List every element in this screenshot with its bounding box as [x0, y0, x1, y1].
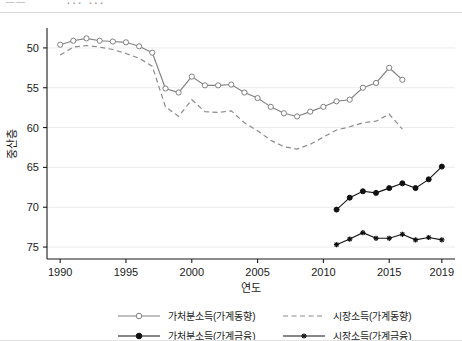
cropped-header-strip: ── ··· ··· [0, 0, 462, 14]
x-tick-label-2010: 2010 [311, 266, 335, 278]
series-0-marker-2005 [255, 95, 260, 100]
series-0-marker-2007 [281, 111, 286, 116]
series-0-marker-2009 [308, 109, 313, 114]
series-3-marker-2019 [439, 237, 444, 242]
series-0-marker-2001 [202, 83, 207, 88]
series-0-marker-2012 [347, 97, 352, 102]
series-3-marker-2012 [347, 236, 352, 241]
x-tick-label-2015: 2015 [377, 266, 401, 278]
series-2-marker-2019 [439, 164, 444, 169]
series-2-marker-2014 [374, 190, 379, 195]
series-0-marker-2006 [268, 104, 273, 109]
series-0-marker-2015 [387, 65, 392, 70]
chart-container: 7570656055501990199520002005201020152019… [0, 14, 462, 341]
series-line-0 [60, 38, 402, 116]
series-0-marker-1992 [84, 36, 89, 41]
series-0-marker-1997 [150, 50, 155, 55]
legend-swatch-3 [283, 333, 325, 338]
series-3-marker-2016 [400, 232, 405, 237]
series-0-marker-2003 [229, 82, 234, 87]
x-tick-label-1990: 1990 [48, 266, 72, 278]
y-axis-title: 중산층 [6, 129, 18, 159]
series-0-marker-1998 [163, 86, 168, 91]
y-tick-label-75: 50 [27, 42, 39, 54]
x-tick-label-2005: 2005 [245, 266, 269, 278]
y-tick-label-55: 70 [27, 201, 39, 213]
series-0-marker-1999 [176, 90, 181, 95]
series-2-marker-2012 [347, 195, 352, 200]
legend-swatch-2 [118, 333, 160, 339]
legend-label-1: 시장소득(가계동향) [333, 311, 412, 322]
series-3-marker-2018 [426, 235, 431, 240]
legend-label-0: 가처분소득(가계동향) [168, 311, 256, 322]
series-2-marker-2013 [360, 189, 365, 194]
series-0-marker-2013 [360, 85, 365, 90]
series-2-marker-2016 [400, 181, 405, 186]
series-0-marker-2016 [400, 77, 405, 82]
series-0-marker-1993 [97, 38, 102, 43]
series-3-marker-2011 [334, 242, 339, 247]
series-0-marker-1990 [58, 42, 63, 47]
series-0-marker-1996 [137, 44, 142, 49]
header-fragment-right: ··· ··· [66, 0, 105, 10]
series-0-marker-2002 [215, 83, 220, 88]
series-0-marker-2004 [242, 90, 247, 95]
line-chart: 7570656055501990199520002005201020152019… [0, 14, 462, 341]
x-tick-label-2019: 2019 [430, 266, 454, 278]
series-0-marker-2010 [321, 104, 326, 109]
series-0-marker-2014 [373, 80, 378, 85]
series-2-marker-2017 [413, 186, 418, 191]
series-0-marker-1995 [123, 40, 128, 45]
series-0-marker-2000 [189, 74, 194, 79]
series-0-marker-2011 [334, 99, 339, 104]
y-tick-label-70: 55 [27, 82, 39, 94]
series-0-marker-1991 [71, 38, 76, 43]
series-3-marker-2013 [360, 230, 365, 235]
y-tick-label-60: 65 [27, 161, 39, 173]
series-2-marker-2011 [334, 207, 339, 212]
header-divider [0, 12, 462, 13]
x-axis-title: 연도 [241, 282, 261, 294]
series-3-marker-2014 [373, 236, 378, 241]
y-tick-label-65: 60 [27, 122, 39, 134]
series-0-marker-1994 [110, 39, 115, 44]
legend-swatch-0 [118, 313, 160, 319]
series-0-marker-2008 [294, 114, 299, 119]
header-fragment-left: ── [6, 0, 27, 9]
series-2-marker-2015 [387, 186, 392, 191]
y-tick-label-50: 75 [27, 241, 39, 253]
series-3-marker-2017 [413, 237, 418, 242]
series-2-marker-2018 [426, 177, 431, 182]
series-3-marker-2015 [387, 236, 392, 241]
x-tick-label-1995: 1995 [114, 266, 138, 278]
x-tick-label-2000: 2000 [180, 266, 204, 278]
figure-root: ── ··· ··· 75706560555019901995200020052… [0, 0, 462, 341]
